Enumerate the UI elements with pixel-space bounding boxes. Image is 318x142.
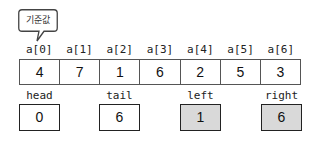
variable-label: head (19, 89, 60, 104)
array-index: a[4] (180, 43, 220, 57)
pivot-callout: 기준값 (18, 9, 58, 32)
array-cell: 7 (59, 60, 99, 84)
variable-tail: tail 6 (99, 89, 140, 131)
array-cell: 6 (139, 60, 179, 84)
array-index: a[0] (19, 43, 59, 57)
pivot-label: 기준값 (18, 9, 58, 32)
array-index: a[5] (220, 43, 260, 57)
array-index: a[6] (261, 43, 301, 57)
array-index-row: a[0] a[1] a[2] a[3] a[4] a[5] a[6] (19, 43, 301, 57)
array-cell: 2 (180, 60, 220, 84)
variable-label: tail (99, 89, 140, 104)
variable-label: left (180, 89, 221, 104)
variable-label: right (261, 89, 302, 104)
array-cell: 1 (99, 60, 139, 84)
variable-head: head 0 (19, 89, 60, 131)
array-cell: 3 (260, 60, 300, 84)
array-cell: 4 (20, 60, 59, 84)
array-index: a[3] (140, 43, 180, 57)
variable-left: left 1 (180, 89, 221, 131)
array-index: a[2] (100, 43, 140, 57)
array: 4 7 1 6 2 5 3 (19, 59, 301, 85)
variable-right: right 6 (261, 89, 302, 131)
variable-value: 0 (19, 104, 60, 131)
variable-value: 1 (180, 104, 221, 131)
variable-value: 6 (261, 104, 302, 131)
array-index: a[1] (59, 43, 99, 57)
array-cell: 5 (220, 60, 260, 84)
variable-value: 6 (99, 104, 140, 131)
